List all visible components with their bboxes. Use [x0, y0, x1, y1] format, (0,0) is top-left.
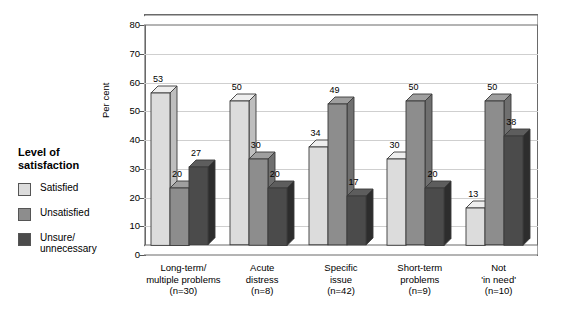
bar-series-container: 532027503020344917305020135038 [144, 14, 538, 256]
legend-swatch-1 [18, 183, 31, 196]
x-axis-label-line: (n=9) [380, 285, 459, 297]
x-axis-label-line: 'in need' [459, 274, 538, 286]
bar [268, 188, 287, 246]
x-axis-label-line: Not [459, 262, 538, 274]
y-axis-tick-label: 70 [110, 49, 140, 59]
x-axis-category-label: Long-term/multiple problems(n=30) [144, 262, 223, 297]
legend-item-label: Satisfied [40, 182, 78, 193]
x-axis-labels: Long-term/multiple problems(n=30)Acutedi… [144, 262, 538, 308]
bar-value-label: 50 [487, 83, 497, 92]
bar-value-label: 49 [330, 86, 340, 95]
y-axis-tick-label: 50 [110, 106, 140, 116]
x-axis-category-label: Short-termproblems(n=9) [380, 262, 459, 297]
x-axis-label-line: (n=8) [223, 285, 302, 297]
bar-3d [425, 180, 452, 246]
legend-item-label: Unsatisfied [40, 207, 89, 218]
bar [485, 101, 504, 245]
bar [249, 159, 268, 245]
bar-value-label: 20 [427, 170, 437, 179]
bar-value-label: 13 [468, 190, 478, 199]
bar [189, 167, 208, 245]
x-axis-label-line: Acute [223, 262, 302, 274]
bar-value-label: 20 [172, 170, 182, 179]
y-axis-tick-label: 20 [110, 193, 140, 203]
x-axis-category-label: Specificissue(n=42) [302, 262, 381, 297]
bar [328, 104, 347, 245]
bar-value-label: 38 [506, 118, 516, 127]
bar-value-label: 30 [251, 141, 261, 150]
x-axis-category-label: Not'in need'(n=10) [459, 262, 538, 297]
bar-chart: Level of satisfaction SatisfiedUnsatisfi… [0, 0, 563, 309]
bar [151, 93, 170, 245]
x-axis-label-line: (n=10) [459, 285, 538, 297]
legend-swatch-2 [18, 208, 31, 221]
bar-3d [268, 180, 295, 246]
x-axis-label-line: (n=30) [144, 285, 223, 297]
bar-3d [504, 128, 531, 245]
bar-3d [347, 188, 374, 245]
legend-swatch-3 [18, 233, 31, 246]
y-axis-tick-label: 60 [110, 78, 140, 88]
y-axis-tick-label: 0 [110, 250, 140, 260]
bar-value-label: 20 [270, 170, 280, 179]
y-axis-tick-label: 80 [110, 20, 140, 30]
legend-item-label: Unsure/unnecessary [40, 232, 97, 254]
bar-value-label: 17 [349, 178, 359, 187]
plot-area: 532027503020344917305020135038 [144, 14, 538, 256]
bar [406, 101, 425, 245]
x-axis-label-line: multiple problems [144, 274, 223, 286]
bar-value-label: 34 [311, 129, 321, 138]
y-axis-tick-label: 40 [110, 135, 140, 145]
bar [466, 208, 485, 245]
bar [170, 188, 189, 246]
bar-value-label: 50 [232, 83, 242, 92]
x-axis-label-line: problems [380, 274, 459, 286]
x-axis-category-label: Acutedistress(n=8) [223, 262, 302, 297]
x-axis-label-line: (n=42) [302, 285, 381, 297]
bar [504, 136, 523, 245]
bar-value-label: 50 [408, 83, 418, 92]
y-axis: Per cent 01020304050607080 [108, 0, 144, 309]
bar-3d [189, 159, 216, 245]
bar [347, 196, 366, 245]
x-axis-label-line: distress [223, 274, 302, 286]
bar-value-label: 30 [389, 141, 399, 150]
bar [230, 101, 249, 245]
y-axis-tick-label: 30 [110, 164, 140, 174]
x-axis-label-line: issue [302, 274, 381, 286]
bar-value-label: 27 [191, 149, 201, 158]
x-axis-label-line: Short-term [380, 262, 459, 274]
bar-value-label: 53 [153, 75, 163, 84]
bar [309, 147, 328, 245]
x-axis-label-line: Long-term/ [144, 262, 223, 274]
bar [425, 188, 444, 246]
y-axis-tick-label: 10 [110, 221, 140, 231]
x-axis-label-line: Specific [302, 262, 381, 274]
bar [387, 159, 406, 245]
